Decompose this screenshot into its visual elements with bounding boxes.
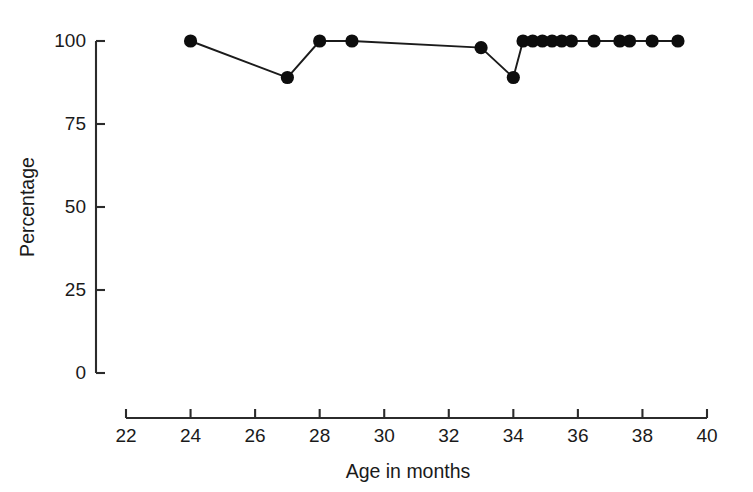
x-tick-label: 24	[180, 425, 202, 446]
x-axis-ticks	[126, 409, 707, 418]
data-point	[565, 34, 578, 47]
x-tick-label: 34	[503, 425, 525, 446]
data-point	[671, 34, 684, 47]
x-tick-label: 36	[567, 425, 588, 446]
data-point	[184, 34, 197, 47]
data-point	[345, 34, 358, 47]
y-tick-label: 75	[65, 113, 86, 134]
y-axis-title: Percentage	[16, 157, 38, 257]
y-tick-label: 100	[54, 30, 86, 51]
series-line	[191, 41, 678, 78]
x-tick-label: 26	[245, 425, 266, 446]
data-point	[623, 34, 636, 47]
x-tick-label: 40	[696, 425, 717, 446]
x-tick-label: 32	[438, 425, 459, 446]
data-series-group	[184, 34, 685, 84]
y-tick-label: 50	[65, 196, 86, 217]
data-point	[587, 34, 600, 47]
x-tick-label: 30	[374, 425, 395, 446]
data-point	[474, 41, 487, 54]
data-point	[313, 34, 326, 47]
x-tick-label: 28	[309, 425, 330, 446]
line-chart: 0255075100 22242628303234363840 Age in m…	[0, 0, 753, 492]
x-axis-tick-labels: 22242628303234363840	[115, 425, 717, 446]
x-tick-label: 22	[115, 425, 136, 446]
y-axis-ticks	[96, 41, 105, 373]
data-point	[281, 71, 294, 84]
data-point	[507, 71, 520, 84]
data-point	[646, 34, 659, 47]
x-axis-title: Age in months	[346, 460, 471, 482]
chart-figure: 0255075100 22242628303234363840 Age in m…	[0, 0, 753, 492]
y-tick-label: 0	[75, 362, 86, 383]
y-tick-label: 25	[65, 279, 86, 300]
y-axis-tick-labels: 0255075100	[54, 30, 86, 383]
x-tick-label: 38	[632, 425, 653, 446]
